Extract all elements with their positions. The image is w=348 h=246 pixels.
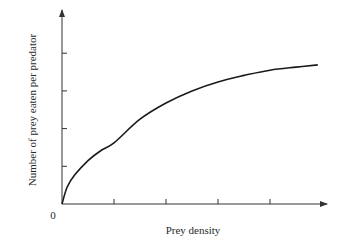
data-curve [62,65,318,204]
origin-label: 0 [50,209,56,221]
y-axis-label: Number of prey eaten per predator [26,33,38,186]
functional-response-chart: 0 Prey density Number of prey eaten per … [0,0,348,246]
axes [62,10,327,204]
x-axis-label: Prey density [166,224,221,236]
